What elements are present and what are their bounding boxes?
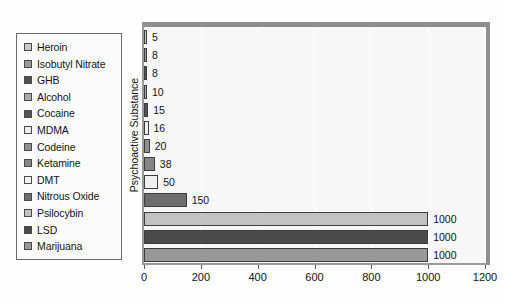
bar-value-label: 10 [147, 86, 164, 98]
bar-row: 8 [144, 66, 485, 80]
bar-row: 20 [144, 139, 485, 153]
bar-value-label: 1000 [428, 213, 456, 225]
bar-row: 1000 [144, 230, 485, 244]
legend-swatch-icon [24, 176, 32, 184]
bar-row: 5 [144, 30, 485, 44]
bar[interactable] [144, 193, 187, 207]
legend-item[interactable]: Isobutyl Nitrate [24, 56, 121, 73]
legend-swatch-icon [24, 110, 32, 118]
legend-item[interactable]: GHB [24, 72, 121, 89]
bar-value-label: 8 [147, 67, 158, 79]
legend-item[interactable]: Psilocybin [24, 205, 121, 222]
legend-swatch-icon [24, 126, 32, 134]
bar-row: 10 [144, 85, 485, 99]
legend-item-label: Psilocybin [37, 205, 83, 222]
legend-item[interactable]: Ketamine [24, 155, 121, 172]
bar-row: 1000 [144, 212, 485, 226]
legend-swatch-icon [24, 226, 32, 234]
bar[interactable] [144, 175, 158, 189]
legend-item[interactable]: Codeine [24, 139, 121, 156]
bar-row: 50 [144, 175, 485, 189]
bar-row: 1000 [144, 248, 485, 262]
plot-inner: 588101516203850150100010001000 [144, 27, 485, 263]
legend-item[interactable]: Alcohol [24, 89, 121, 106]
bar-value-label: 50 [158, 176, 175, 188]
legend-item[interactable]: DMT [24, 172, 121, 189]
bar-value-label: 16 [149, 122, 166, 134]
legend-swatch-icon [24, 242, 32, 250]
bar-value-label: 150 [187, 194, 210, 206]
chart-figure: HeroinIsobutyl NitrateGHBAlcoholCocaineM… [0, 0, 505, 303]
x-axis-tick-label: 600 [305, 271, 323, 283]
bar-row: 8 [144, 48, 485, 62]
bar-row: 150 [144, 193, 485, 207]
bar-row: 15 [144, 103, 485, 117]
legend-item-label: Alcohol [37, 89, 71, 106]
x-axis-tick [201, 265, 202, 269]
gridline [485, 27, 486, 263]
legend-item-label: MDMA [37, 122, 69, 139]
legend-swatch-icon [24, 43, 32, 51]
legend-swatch-icon [24, 143, 32, 151]
legend-item-label: Heroin [37, 39, 67, 56]
legend-swatch-icon [24, 159, 32, 167]
legend-item[interactable]: Nitrous Oxide [24, 188, 121, 205]
legend-item[interactable]: Marijuana [24, 238, 121, 255]
y-axis-title: Psychoactive Substance [126, 60, 142, 210]
chart-legend: HeroinIsobutyl NitrateGHBAlcoholCocaineM… [16, 33, 122, 260]
bar-value-label: 20 [150, 140, 167, 152]
legend-item-label: Codeine [37, 139, 75, 156]
x-axis-tick [371, 265, 372, 269]
x-axis-tick [428, 265, 429, 269]
legend-item[interactable]: LSD [24, 222, 121, 239]
x-axis-tick-label: 200 [192, 271, 210, 283]
legend-swatch-icon [24, 93, 32, 101]
x-axis-tick [315, 265, 316, 269]
x-axis: 020040060080010001200 [142, 265, 490, 295]
bar-row: 38 [144, 157, 485, 171]
legend-item-label: Cocaine [37, 105, 75, 122]
bar-value-label: 15 [148, 104, 165, 116]
x-axis-tick-label: 800 [362, 271, 380, 283]
bar-value-label: 1000 [428, 231, 456, 243]
legend-item-label: Nitrous Oxide [37, 188, 99, 205]
x-axis-tick-label: 1000 [416, 271, 440, 283]
bar-value-label: 38 [155, 158, 172, 170]
legend-item[interactable]: Cocaine [24, 105, 121, 122]
legend-swatch-icon [24, 76, 32, 84]
bar-value-label: 5 [147, 31, 158, 43]
bar[interactable] [144, 157, 155, 171]
x-axis-tick [485, 265, 486, 269]
bar[interactable] [144, 212, 428, 226]
x-axis-tick [258, 265, 259, 269]
plot-area: 588101516203850150100010001000 [142, 22, 490, 265]
legend-swatch-icon [24, 193, 32, 201]
y-axis-title-text: Psychoactive Substance [128, 78, 140, 192]
x-axis-tick-label: 1200 [473, 271, 497, 283]
x-axis-tick-label: 0 [141, 271, 147, 283]
legend-swatch-icon [24, 60, 32, 68]
bar-row: 16 [144, 121, 485, 135]
x-axis-tick-label: 400 [248, 271, 266, 283]
legend-item-label: Isobutyl Nitrate [37, 56, 105, 73]
legend-item-label: LSD [37, 222, 57, 239]
bar[interactable] [144, 230, 428, 244]
bar-value-label: 8 [147, 49, 158, 61]
legend-item-label: GHB [37, 72, 59, 89]
bar-value-label: 1000 [428, 249, 456, 261]
legend-item-label: Marijuana [37, 238, 82, 255]
legend-item-label: DMT [37, 172, 59, 189]
x-axis-tick [144, 265, 145, 269]
legend-item-label: Ketamine [37, 155, 81, 172]
legend-item[interactable]: Heroin [24, 39, 121, 56]
legend-item[interactable]: MDMA [24, 122, 121, 139]
legend-swatch-icon [24, 209, 32, 217]
bar[interactable] [144, 248, 428, 262]
